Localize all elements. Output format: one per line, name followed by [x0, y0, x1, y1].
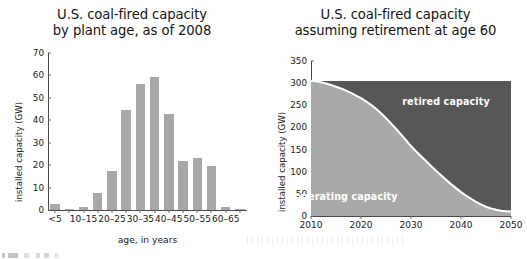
left-chart-bar — [193, 158, 202, 210]
right-chart-x-tick-label: 2040 — [450, 216, 473, 230]
right-chart-label-operating-capacity: operating capacity — [294, 191, 397, 202]
right-chart-y-tick-label: 350 — [290, 56, 311, 66]
right-chart-y-tick-label: 100 — [290, 167, 311, 177]
left-chart-bar — [136, 84, 145, 210]
right-chart-x-tick-label: 2050 — [500, 216, 523, 230]
left-chart-bar — [207, 166, 216, 210]
chart-panel-coal-capacity-by-plant-age: U.S. coal-fired capacity by plant age, a… — [0, 0, 264, 259]
left-chart-title-line2: by plant age, as of 2008 — [0, 23, 264, 39]
right-chart-y-tick-label: 150 — [290, 145, 311, 155]
left-chart-y-tick-label: 10 — [33, 183, 48, 193]
right-chart-x-tick-label: 2010 — [300, 216, 323, 230]
right-chart-y-tick-label: 300 — [290, 78, 311, 88]
left-chart-bar — [164, 114, 173, 210]
left-chart-x-tick-label: 10–15 — [70, 210, 97, 224]
left-chart-bars — [48, 53, 247, 210]
right-chart-title-line1: U.S. coal-fired capacity — [321, 7, 471, 22]
right-chart-x-tick-label: 2030 — [400, 216, 423, 230]
left-chart-title: U.S. coal-fired capacity by plant age, a… — [0, 7, 264, 38]
scan-noise-speckle — [247, 236, 407, 245]
left-chart-x-tick-mark — [239, 210, 240, 213]
left-chart-x-tick-label: 20–25 — [98, 210, 125, 224]
left-chart-x-tick-label: 50–55 — [184, 210, 211, 224]
figure-two-coal-capacity-charts: U.S. coal-fired capacity by plant age, a… — [0, 0, 527, 259]
left-chart-bar — [93, 193, 102, 210]
right-chart-y-tick-label: 250 — [290, 100, 311, 110]
left-chart-x-axis-label: age, in years — [48, 234, 247, 245]
left-chart-bar — [178, 161, 187, 210]
right-chart-x-tick-label: 2020 — [350, 216, 373, 230]
left-chart-title-line1: U.S. coal-fired capacity — [57, 7, 207, 22]
right-chart-title: U.S. coal-fired capacity assuming retire… — [264, 7, 527, 38]
right-chart-label-retired-capacity: retired capacity — [402, 95, 489, 106]
left-chart-plot-area: 010203040506070 <510–1520–2530–3540–4550… — [48, 53, 247, 210]
right-chart-plot-area: 050100150200250300350 retired capacity o… — [311, 61, 511, 216]
left-chart-x-tick-label: 40–45 — [155, 210, 182, 224]
left-chart-bar — [121, 110, 130, 210]
left-chart-y-tick-label: 50 — [33, 93, 48, 103]
left-chart-x-tick-label: 30–35 — [127, 210, 154, 224]
scan-artifact-caption-fragment — [2, 253, 68, 258]
right-chart-title-line2: assuming retirement at age 60 — [264, 23, 527, 39]
left-chart-y-tick-label: 0 — [38, 205, 48, 215]
left-chart-y-tick-label: 60 — [33, 70, 48, 80]
left-chart-y-tick-label: 20 — [33, 160, 48, 170]
left-chart-bar — [150, 77, 159, 210]
left-chart-bar — [107, 171, 116, 210]
left-chart-y-tick-label: 70 — [33, 48, 48, 58]
left-chart-x-tick-label: <5 — [48, 210, 61, 224]
chart-panel-coal-capacity-retirement-age-60: U.S. coal-fired capacity assuming retire… — [264, 0, 527, 259]
left-chart-y-axis-label: installed capacity (GW) — [14, 102, 24, 202]
left-chart-y-tick-label: 40 — [33, 115, 48, 125]
left-chart-x-tick-label: 60–65 — [212, 210, 239, 224]
left-chart-y-tick-label: 30 — [33, 138, 48, 148]
right-chart-y-axis-label: installed capacity (GW) — [277, 112, 287, 212]
right-chart-y-tick-label: 200 — [290, 122, 311, 132]
